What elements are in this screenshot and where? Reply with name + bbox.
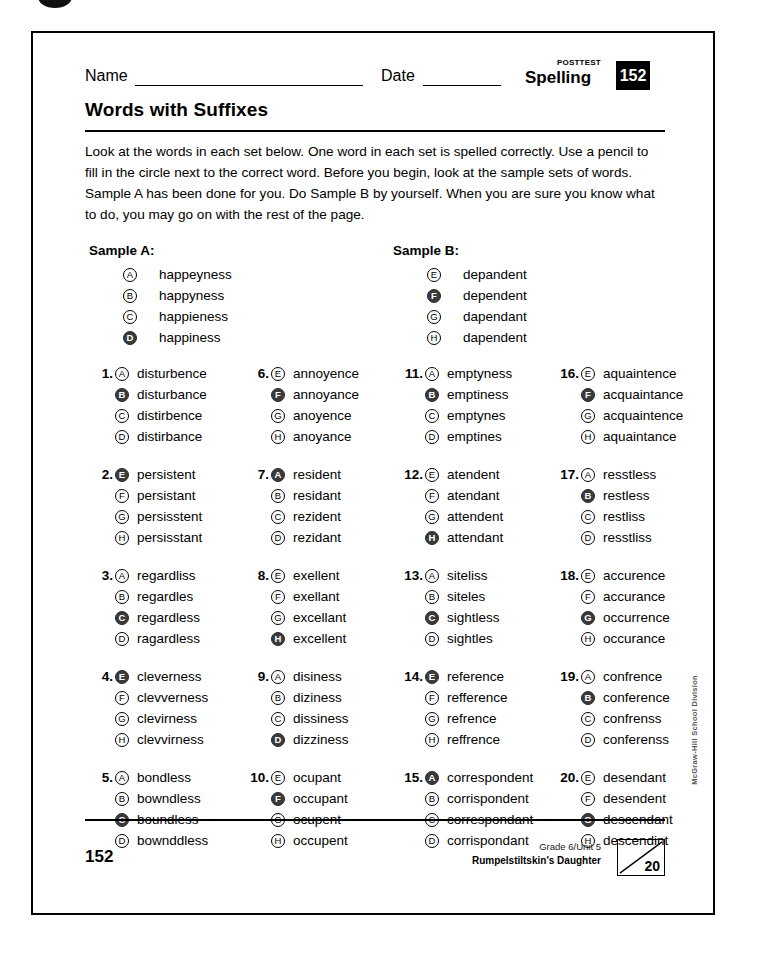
sample-b-option[interactable]: H dapendent — [427, 327, 527, 348]
answer-option[interactable]: 4.Fclevverness — [89, 687, 208, 708]
bubble-d[interactable]: D — [271, 531, 285, 545]
answer-option[interactable]: 18.Hoccurance — [555, 628, 683, 649]
answer-option[interactable]: 6.Fannoyance — [245, 384, 359, 405]
bubble-d[interactable]: D — [425, 632, 439, 646]
bubble-c[interactable]: C — [115, 611, 129, 625]
answer-option[interactable]: 17.Aresstless — [555, 464, 683, 485]
bubble-h[interactable]: H — [115, 733, 129, 747]
answer-option[interactable]: 13.Asiteliss — [399, 565, 533, 586]
bubble-e[interactable]: E — [581, 569, 595, 583]
bubble-a[interactable]: A — [271, 468, 285, 482]
bubble-c[interactable]: C — [123, 310, 137, 324]
bubble-a[interactable]: A — [115, 367, 129, 381]
answer-option[interactable]: 18.Eaccurence — [555, 565, 683, 586]
bubble-d[interactable]: D — [123, 331, 137, 345]
bubble-c[interactable]: C — [271, 712, 285, 726]
answer-option[interactable]: 17.Dresstliss — [555, 527, 683, 548]
bubble-f[interactable]: F — [581, 590, 595, 604]
answer-option[interactable]: 3.Aregardliss — [89, 565, 208, 586]
bubble-b[interactable]: B — [115, 792, 129, 806]
answer-option[interactable]: 12.Hattendant — [399, 527, 533, 548]
answer-option[interactable]: 2.Epersistent — [89, 464, 208, 485]
bubble-f[interactable]: F — [271, 388, 285, 402]
answer-option[interactable]: 6.Hanoyance — [245, 426, 359, 447]
bubble-e[interactable]: E — [425, 468, 439, 482]
answer-option[interactable]: 4.Hclevvirness — [89, 729, 208, 750]
bubble-f[interactable]: F — [115, 691, 129, 705]
bubble-a[interactable]: A — [425, 569, 439, 583]
bubble-e[interactable]: E — [581, 367, 595, 381]
sample-a-option[interactable]: B happyness — [123, 285, 232, 306]
answer-option[interactable]: 15.Bcorrispondent — [399, 788, 533, 809]
bubble-h[interactable]: H — [427, 331, 441, 345]
answer-option[interactable]: 3.Dragardless — [89, 628, 208, 649]
answer-option[interactable]: 9.Ddizziness — [245, 729, 359, 750]
answer-option[interactable]: 6.Eannoyence — [245, 363, 359, 384]
answer-option[interactable]: 3.Cregardless — [89, 607, 208, 628]
bubble-f[interactable]: F — [427, 289, 441, 303]
sample-a-option[interactable]: C happieness — [123, 306, 232, 327]
bubble-g[interactable]: G — [115, 510, 129, 524]
bubble-a[interactable]: A — [425, 367, 439, 381]
sample-a-option[interactable]: D happiness — [123, 327, 232, 348]
answer-option[interactable]: 9.Cdissiness — [245, 708, 359, 729]
bubble-e[interactable]: E — [271, 569, 285, 583]
bubble-d[interactable]: D — [581, 733, 595, 747]
bubble-c[interactable]: C — [425, 611, 439, 625]
sample-b-option[interactable]: F dependent — [427, 285, 527, 306]
bubble-b[interactable]: B — [581, 691, 595, 705]
answer-option[interactable]: 19.Bconference — [555, 687, 683, 708]
bubble-d[interactable]: D — [271, 733, 285, 747]
answer-option[interactable]: 18.Goccurrence — [555, 607, 683, 628]
bubble-e[interactable]: E — [271, 771, 285, 785]
answer-option[interactable]: 16.Haquaintance — [555, 426, 683, 447]
answer-option[interactable]: 7.Drezidant — [245, 527, 359, 548]
answer-option[interactable]: 19.Cconfrenss — [555, 708, 683, 729]
answer-option[interactable]: 20.Fdesendent — [555, 788, 683, 809]
answer-option[interactable]: 10.Foccupant — [245, 788, 359, 809]
bubble-e[interactable]: E — [115, 468, 129, 482]
bubble-a[interactable]: A — [115, 771, 129, 785]
answer-option[interactable]: 14.Frefference — [399, 687, 533, 708]
answer-option[interactable]: 3.Bregardles — [89, 586, 208, 607]
answer-option[interactable]: 11.Bemptiness — [399, 384, 533, 405]
answer-option[interactable]: 1.Ddistirbance — [89, 426, 208, 447]
bubble-e[interactable]: E — [271, 367, 285, 381]
bubble-b[interactable]: B — [115, 590, 129, 604]
bubble-f[interactable]: F — [271, 792, 285, 806]
bubble-a[interactable]: A — [123, 268, 137, 282]
answer-option[interactable]: 7.Bresidant — [245, 485, 359, 506]
bubble-c[interactable]: C — [581, 712, 595, 726]
sample-a-option[interactable]: A happeyness — [123, 264, 232, 285]
bubble-b[interactable]: B — [581, 489, 595, 503]
bubble-d[interactable]: D — [581, 531, 595, 545]
bubble-b[interactable]: B — [123, 289, 137, 303]
answer-option[interactable]: 19.Dconferenss — [555, 729, 683, 750]
bubble-c[interactable]: C — [425, 409, 439, 423]
answer-option[interactable]: 5.Bbowndless — [89, 788, 208, 809]
bubble-g[interactable]: G — [271, 611, 285, 625]
bubble-e[interactable]: E — [425, 670, 439, 684]
bubble-h[interactable]: H — [271, 632, 285, 646]
answer-option[interactable]: 11.Aemptyness — [399, 363, 533, 384]
answer-option[interactable]: 4.Ecleverness — [89, 666, 208, 687]
answer-option[interactable]: 2.Gpersisstent — [89, 506, 208, 527]
bubble-b[interactable]: B — [425, 792, 439, 806]
bubble-c[interactable]: C — [581, 510, 595, 524]
answer-option[interactable]: 8.Eexellent — [245, 565, 359, 586]
answer-option[interactable]: 4.Gclevirness — [89, 708, 208, 729]
bubble-f[interactable]: F — [115, 489, 129, 503]
answer-option[interactable]: 2.Hpersisstant — [89, 527, 208, 548]
bubble-g[interactable]: G — [115, 712, 129, 726]
bubble-h[interactable]: H — [425, 531, 439, 545]
bubble-a[interactable]: A — [581, 468, 595, 482]
bubble-b[interactable]: B — [271, 489, 285, 503]
answer-option[interactable]: 12.Eatendent — [399, 464, 533, 485]
bubble-g[interactable]: G — [425, 712, 439, 726]
answer-option[interactable]: 5.Abondless — [89, 767, 208, 788]
bubble-f[interactable]: F — [581, 388, 595, 402]
answer-option[interactable]: 20.Edesendant — [555, 767, 683, 788]
answer-option[interactable]: 1.Cdistirbence — [89, 405, 208, 426]
bubble-g[interactable]: G — [271, 409, 285, 423]
answer-option[interactable]: 7.Crezident — [245, 506, 359, 527]
